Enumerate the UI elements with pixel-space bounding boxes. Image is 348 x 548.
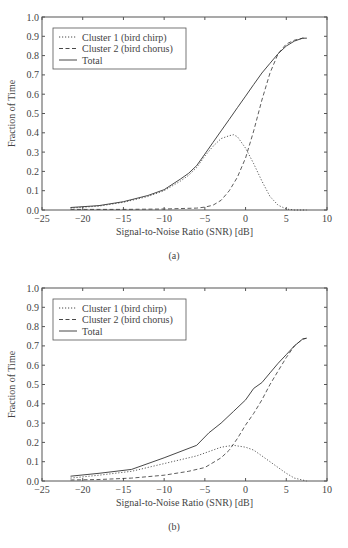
x-tick-label: −20 [75,484,91,495]
chart-panel-b: 0.00.10.20.30.40.50.60.70.80.91.0−25−20−… [0,271,348,545]
series-line [71,445,307,481]
y-tick-label: 0.8 [27,50,40,61]
x-tick-label: 10 [322,484,332,495]
y-tick-label: 0.4 [27,398,40,409]
x-tick-label: −10 [156,484,172,495]
x-axis-label: Signal-to-Noise Ratio (SNR) [dB] [116,497,253,509]
x-tick-label: −15 [116,484,132,495]
legend-label: Total [82,55,103,66]
series-line [71,338,307,476]
x-tick-label: 0 [243,213,248,224]
y-tick-label: 0.1 [27,456,40,467]
line-chart-b: 0.00.10.20.30.40.50.60.70.80.91.0−25−20−… [0,271,348,545]
y-tick-label: 0.8 [27,321,40,332]
y-tick-label: 0.3 [27,147,40,158]
x-tick-label: −25 [34,484,50,495]
x-tick-label: −15 [116,213,132,224]
x-tick-label: −5 [200,213,211,224]
y-tick-label: 0.9 [27,302,40,313]
y-tick-label: 0.4 [27,127,40,138]
y-axis-label: Fraction of Time [6,350,17,418]
line-chart-a: 0.00.10.20.30.40.50.60.70.80.91.0−25−20−… [0,0,348,274]
x-tick-label: 0 [243,484,248,495]
y-tick-label: 0.5 [27,108,40,119]
x-tick-label: 5 [284,484,289,495]
legend-label: Cluster 2 (bird chorus) [82,43,173,55]
x-tick-label: 10 [322,213,332,224]
chart-caption-a: (a) [0,250,348,261]
legend-label: Total [82,326,103,337]
y-tick-label: 0.1 [27,185,40,196]
y-tick-label: 0.6 [27,89,40,100]
x-axis-label: Signal-to-Noise Ratio (SNR) [dB] [116,226,253,238]
chart-caption-b: (b) [0,521,348,532]
y-tick-label: 0.9 [27,31,40,42]
y-tick-label: 0.3 [27,418,40,429]
chart-panel-a: 0.00.10.20.30.40.50.60.70.80.91.0−25−20−… [0,0,348,274]
legend-label: Cluster 2 (bird chorus) [82,314,173,326]
y-tick-label: 0.2 [27,437,40,448]
y-tick-label: 0.2 [27,166,40,177]
x-tick-label: −5 [200,484,211,495]
y-tick-label: 0.6 [27,360,40,371]
y-tick-label: 0.7 [27,69,40,80]
y-axis-label: Fraction of Time [6,79,17,147]
y-tick-label: 1.0 [27,283,40,294]
x-tick-label: −25 [34,213,50,224]
x-tick-label: −10 [156,213,172,224]
x-tick-label: −20 [75,213,91,224]
series-line [71,338,307,480]
y-tick-label: 0.5 [27,379,40,390]
x-tick-label: 5 [284,213,289,224]
series-line [71,135,307,210]
y-tick-label: 0.7 [27,340,40,351]
y-tick-label: 1.0 [27,12,40,23]
legend-label: Cluster 1 (bird chirp) [82,303,167,315]
legend-label: Cluster 1 (bird chirp) [82,32,167,44]
